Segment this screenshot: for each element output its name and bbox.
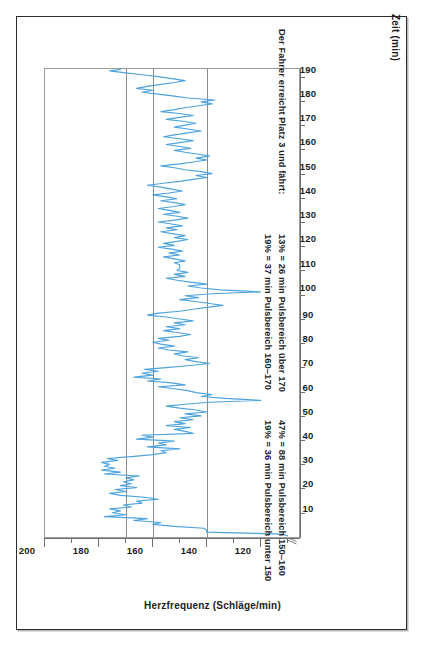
time-tick-100 xyxy=(300,295,305,296)
time-axis: 1020304050607080901001101201301401501601… xyxy=(300,68,306,538)
time-tick-190 xyxy=(300,77,305,78)
heart-rate-minor-tick-150 xyxy=(178,538,179,543)
caption-zone-over-170: 13% = 26 min Pulsbereich über 170 xyxy=(275,234,289,420)
time-tick-110 xyxy=(300,271,305,272)
heart-rate-axis-title: Herzfrequenz (Schläge/min) xyxy=(17,600,408,611)
caption-lead: Der Fahrer erreicht Platz 3 und fährt: xyxy=(275,29,289,234)
time-label-60: 60 xyxy=(302,382,313,393)
heart-rate-label-160: 160 xyxy=(126,546,142,557)
time-label-100: 100 xyxy=(299,282,315,293)
heart-rate-tick-180 xyxy=(97,538,98,547)
caption-zone-160-170: 19% = 37 min Pulsbereich 160–170 xyxy=(260,234,274,420)
time-tick-140 xyxy=(300,198,305,199)
caption-block: Der Fahrer erreicht Platz 3 und fährt: 1… xyxy=(260,29,289,589)
caption-zone-under-150: 19% = 36 min Pulsbereich unter 150 xyxy=(260,420,274,581)
time-tick-130 xyxy=(300,222,305,223)
heart-rate-tick-140 xyxy=(205,538,206,547)
time-tick-160 xyxy=(300,149,305,150)
time-label-170: 170 xyxy=(299,112,315,123)
time-axis-title: Zeit (min) xyxy=(390,14,401,61)
time-label-160: 160 xyxy=(299,137,315,148)
time-label-140: 140 xyxy=(299,185,315,196)
heart-rate-tick-200 xyxy=(44,538,45,547)
time-tick-150 xyxy=(300,174,305,175)
caption-row-2: 19% = 37 min Pulsbereich 160–170 19% = 3… xyxy=(260,29,274,589)
time-tick-120 xyxy=(300,246,305,247)
heart-rate-minor-tick-130 xyxy=(232,538,233,543)
heart-rate-polyline xyxy=(101,69,287,535)
time-label-20: 20 xyxy=(302,479,313,490)
figure-frame: 200180160140120 102030405060708090100110… xyxy=(16,16,407,630)
caption-zone-150-160: 47% = 88 min Pulsbereich 150–160 xyxy=(275,420,289,576)
time-label-130: 130 xyxy=(299,209,315,220)
heart-rate-label-200: 200 xyxy=(18,546,34,557)
heart-rate-label-120: 120 xyxy=(234,546,250,557)
time-label-40: 40 xyxy=(302,430,313,441)
caption-row-1: Der Fahrer erreicht Platz 3 und fährt: 1… xyxy=(275,29,289,589)
time-label-150: 150 xyxy=(299,161,315,172)
heart-rate-tick-160 xyxy=(151,538,152,547)
time-label-70: 70 xyxy=(302,357,313,368)
time-label-190: 190 xyxy=(299,64,315,75)
heart-rate-label-180: 180 xyxy=(72,546,88,557)
time-tick-180 xyxy=(300,101,305,102)
time-tick-170 xyxy=(300,125,305,126)
caption-spacer xyxy=(260,29,274,234)
time-label-50: 50 xyxy=(302,406,313,417)
time-label-10: 10 xyxy=(302,503,313,514)
time-label-90: 90 xyxy=(302,309,313,320)
heart-rate-label-140: 140 xyxy=(180,546,196,557)
heart-rate-minor-tick-190 xyxy=(70,538,71,543)
time-label-180: 180 xyxy=(299,88,315,99)
time-label-110: 110 xyxy=(300,258,316,269)
heart-rate-minor-tick-170 xyxy=(124,538,125,543)
time-label-30: 30 xyxy=(302,454,313,465)
time-label-120: 120 xyxy=(299,234,315,245)
time-label-80: 80 xyxy=(302,333,313,344)
